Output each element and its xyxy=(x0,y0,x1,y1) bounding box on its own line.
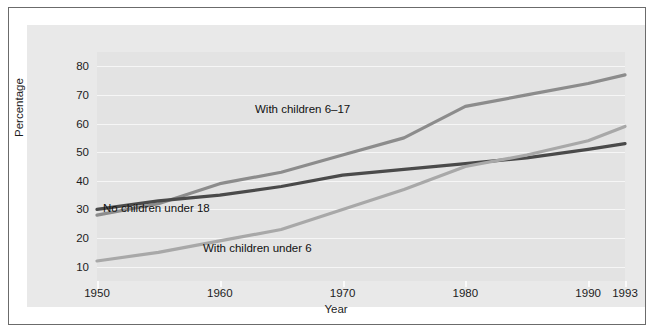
x-axis-title: Year xyxy=(27,303,645,315)
y-axis-ticks: 1020304050607080 xyxy=(43,52,89,281)
chart-figure: 1020304050607080 Percentage 195019601970… xyxy=(0,0,654,333)
x-tick-label: 1950 xyxy=(84,287,110,299)
y-tick-label: 30 xyxy=(55,203,89,215)
series-line xyxy=(97,126,625,261)
y-tick-label: 50 xyxy=(55,146,89,158)
x-tick-label: 1990 xyxy=(575,287,601,299)
y-tick-label: 40 xyxy=(55,175,89,187)
y-axis-title: Percentage xyxy=(13,78,25,137)
y-tick-label: 80 xyxy=(55,60,89,72)
figure-border: 1020304050607080 Percentage 195019601970… xyxy=(8,7,646,325)
series-line xyxy=(97,144,625,210)
chart-panel: 1020304050607080 Percentage 195019601970… xyxy=(27,25,645,307)
x-tick-label: 1993 xyxy=(612,287,638,299)
x-tick-label: 1960 xyxy=(207,287,233,299)
y-tick-label: 20 xyxy=(55,232,89,244)
series-label-no-children-under-18: No children under 18 xyxy=(103,202,210,214)
x-tick-label: 1980 xyxy=(453,287,479,299)
series-lines xyxy=(97,52,625,281)
y-tick-label: 10 xyxy=(55,261,89,273)
y-tick-label: 70 xyxy=(55,89,89,101)
series-label-with-children-under-6: With children under 6 xyxy=(203,242,312,254)
x-tick-label: 1970 xyxy=(330,287,356,299)
series-label-with-children-6-17: With children 6–17 xyxy=(255,103,350,115)
x-axis-ticks: 195019601970198019901993 xyxy=(97,287,625,303)
series-line xyxy=(97,75,625,215)
plot-area xyxy=(97,52,625,281)
y-tick-label: 60 xyxy=(55,118,89,130)
